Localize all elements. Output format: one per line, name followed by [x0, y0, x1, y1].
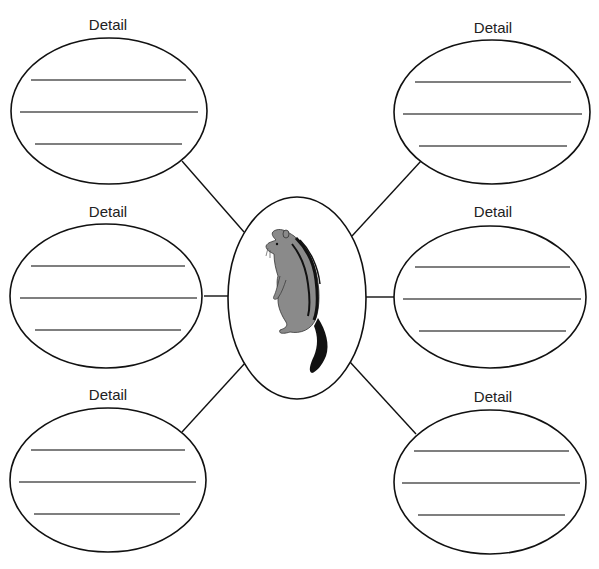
detail-label-top-left: Detail [89, 16, 127, 33]
connector-top-right [352, 161, 421, 236]
organizer-graphic [0, 0, 599, 569]
detail-oval-bottom-left[interactable] [10, 408, 206, 552]
detail-label-middle-left: Detail [89, 203, 127, 220]
connector-bottom-left [182, 362, 246, 432]
connector-bottom-right [350, 362, 416, 434]
detail-oval-top-right[interactable] [394, 40, 590, 184]
detail-label-bottom-left: Detail [89, 386, 127, 403]
detail-oval-middle-left[interactable] [10, 224, 202, 368]
detail-oval-bottom-right[interactable] [394, 410, 586, 554]
detail-oval-middle-right[interactable] [394, 226, 586, 368]
detail-label-bottom-right: Detail [474, 388, 512, 405]
detail-oval-top-left[interactable] [11, 38, 207, 184]
detail-web-organizer: Detail Detail Detail Detail Detail Detai… [0, 0, 599, 569]
detail-label-middle-right: Detail [474, 203, 512, 220]
detail-label-top-right: Detail [474, 19, 512, 36]
connector-top-left [182, 161, 244, 232]
